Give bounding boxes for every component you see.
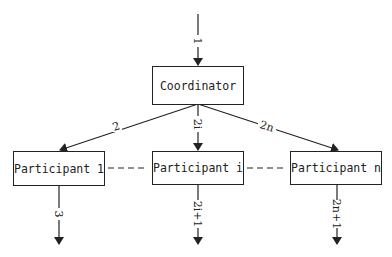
participant-1-node: Participant 1 (13, 151, 105, 186)
diagram-canvas: 1 2 2i 2n 3 2i+1 2n+1 (0, 0, 392, 257)
edge-label-out-p1: 3 (52, 211, 65, 218)
edge-to-p1 (60, 104, 198, 150)
edge-label-out-pi: 2i+1 (191, 201, 204, 228)
participant-1-label: Participant 1 (14, 162, 104, 176)
participant-n-node: Participant n (290, 151, 382, 185)
edge-label-in: 1 (191, 38, 204, 45)
participant-n-label: Participant n (291, 161, 381, 175)
coordinator-node: Coordinator (152, 66, 244, 105)
edge-label-out-pn: 2n+1 (330, 199, 343, 229)
edge-label-to-pn: 2n (258, 118, 275, 135)
coordinator-label: Coordinator (160, 79, 236, 93)
participant-i-label: Participant i (153, 161, 243, 175)
participant-i-node: Participant i (152, 151, 244, 185)
edge-label-to-pi: 2i (191, 119, 204, 130)
